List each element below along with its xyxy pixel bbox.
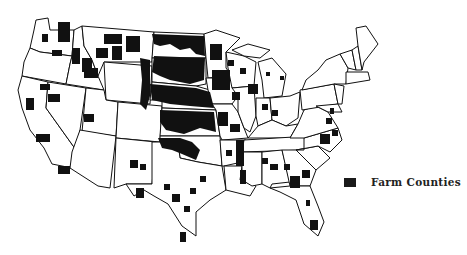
us-map — [0, 0, 467, 255]
legend-label-farm-counties: Farm Counties — [371, 176, 461, 188]
legend-swatch-farm-counties — [344, 178, 356, 187]
legend: Farm Counties — [344, 176, 461, 188]
